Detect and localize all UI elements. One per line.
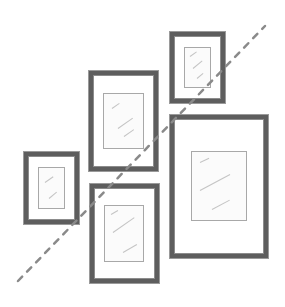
gallery-wall-illustration [0, 0, 285, 307]
dashed-guide-line [0, 0, 285, 307]
